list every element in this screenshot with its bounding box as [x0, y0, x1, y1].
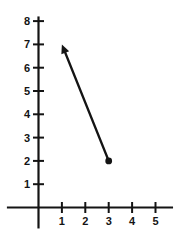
x-tick-label: 1	[59, 215, 65, 227]
vector-line	[65, 51, 109, 161]
y-tick-label: 8	[24, 15, 30, 27]
x-tick-label: 2	[82, 215, 88, 227]
y-tick-label: 2	[24, 155, 30, 167]
y-tick-label: 5	[24, 85, 30, 97]
x-tick-label: 3	[106, 215, 112, 227]
vector-plot-figure: 1234512345678	[0, 0, 188, 236]
y-tick-label: 3	[24, 132, 30, 144]
x-tick-label: 4	[129, 215, 136, 227]
vector-plot-canvas: 1234512345678	[0, 0, 188, 236]
y-tick-label: 1	[24, 178, 30, 190]
y-tick-label: 4	[24, 108, 31, 120]
y-tick-label: 6	[24, 62, 30, 74]
vector-start-dot	[105, 158, 112, 165]
x-tick-label: 5	[152, 215, 158, 227]
y-tick-label: 7	[24, 38, 30, 50]
